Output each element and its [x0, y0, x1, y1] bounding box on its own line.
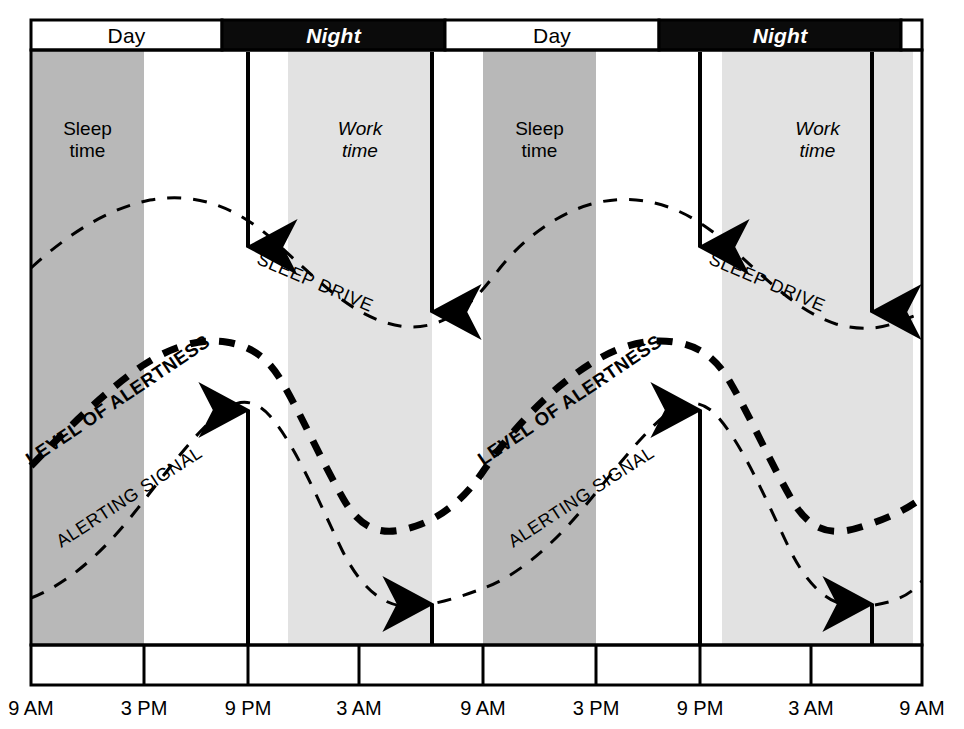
daynight-label-day-0: Day — [31, 25, 222, 46]
axis-tick-label-3: 3 AM — [314, 698, 404, 718]
axis-tick-label-7: 3 AM — [766, 698, 856, 718]
axis-tick-label-5: 3 PM — [551, 698, 641, 718]
axis-tick-label-8: 9 AM — [877, 698, 964, 718]
axis-tick-label-0: 9 AM — [0, 698, 76, 718]
axis-tick-label-2: 9 PM — [203, 698, 293, 718]
axis-ticks-layer — [144, 645, 811, 685]
daynight-label-night-3: Night — [659, 25, 901, 46]
work-band-2-label: Work time — [758, 118, 878, 163]
axis-strip — [31, 645, 922, 685]
daynight-segment-day-4 — [901, 20, 922, 50]
circadian-chart: DayNightDayNight Sleep timeWork timeSlee… — [0, 0, 964, 729]
sleep-band-2-label: Sleep time — [480, 118, 600, 163]
sleep-band-1-label: Sleep time — [28, 118, 148, 163]
axis-tick-label-6: 9 PM — [655, 698, 745, 718]
work-band-1-label: Work time — [300, 118, 420, 163]
chart-canvas — [0, 0, 964, 729]
axis-tick-label-1: 3 PM — [99, 698, 189, 718]
axis-tick-label-4: 9 AM — [438, 698, 528, 718]
daynight-label-day-2: Day — [445, 25, 659, 46]
daynight-label-night-1: Night — [222, 25, 445, 46]
